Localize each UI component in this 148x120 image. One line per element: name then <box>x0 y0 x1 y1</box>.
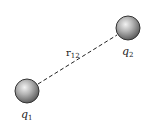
charge-q1-symbol: q <box>21 108 28 120</box>
charge-q2-symbol: q <box>122 45 129 58</box>
separation-label: r12 <box>66 43 80 60</box>
charge-q2-subscript: 2 <box>129 51 133 59</box>
charge-q1-label: q1 <box>21 105 33 120</box>
charge-q2-sphere <box>116 16 140 40</box>
charge-q1-subscript: 1 <box>28 114 32 120</box>
diagram-graphics <box>0 0 148 120</box>
charge-q1-sphere <box>15 79 39 103</box>
charge-q2-label: q2 <box>122 42 134 59</box>
diagram-canvas: r12 q2 q1 <box>0 0 148 120</box>
separation-subscript: 12 <box>71 52 80 60</box>
